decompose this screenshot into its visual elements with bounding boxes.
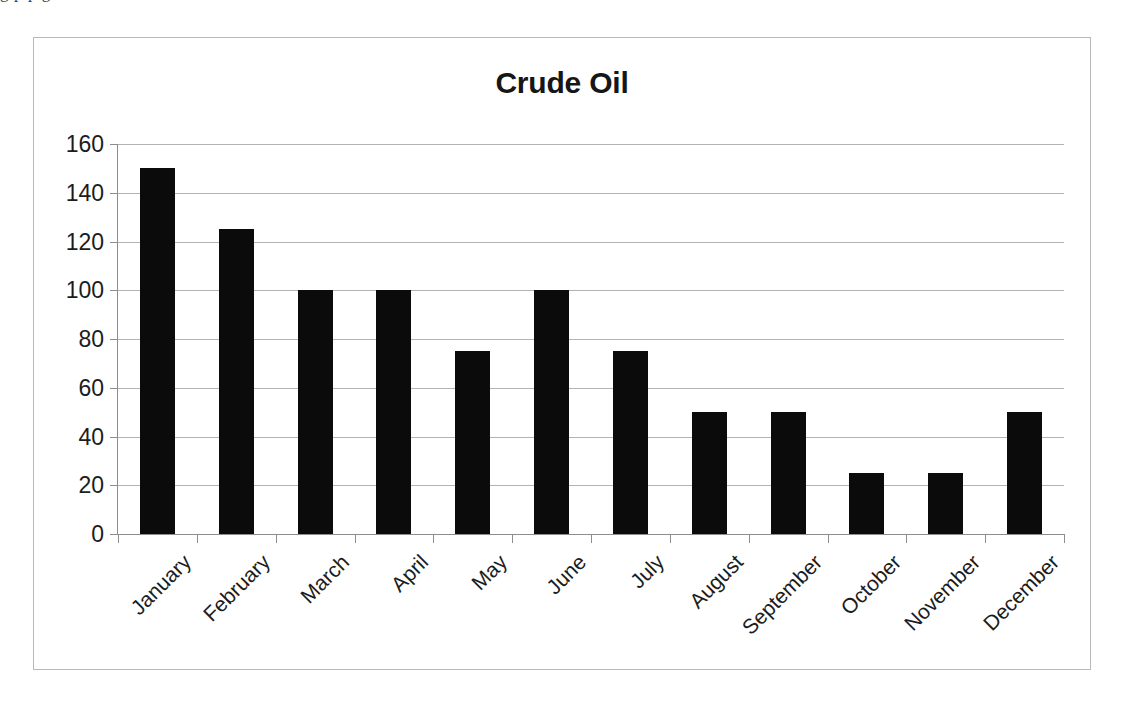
y-axis-label: 60 — [78, 374, 104, 401]
chart-frame: Crude Oil 020406080100120140160 JanuaryF… — [33, 37, 1091, 670]
y-axis-label: 40 — [78, 423, 104, 450]
x-tick-mark — [591, 534, 592, 543]
gridline-20 — [118, 485, 1064, 486]
x-tick-mark — [512, 534, 513, 543]
bar-september[interactable] — [771, 412, 806, 534]
bar-december[interactable] — [1007, 412, 1042, 534]
bar-october[interactable] — [849, 473, 884, 534]
bar-may[interactable] — [455, 351, 490, 534]
y-axis-label: 20 — [78, 472, 104, 499]
page-text-remnant: g p p g — [0, 0, 1127, 14]
x-tick-mark — [749, 534, 750, 543]
plot-area: 020406080100120140160 JanuaryFebruaryMar… — [118, 144, 1064, 534]
chart-title: Crude Oil — [34, 66, 1090, 100]
x-axis-label-february: February — [199, 550, 275, 626]
x-tick-mark — [197, 534, 198, 543]
x-tick-mark — [985, 534, 986, 543]
x-tick-mark — [118, 534, 119, 543]
y-axis-label: 80 — [78, 326, 104, 353]
gridline-40 — [118, 437, 1064, 438]
x-tick-mark — [355, 534, 356, 543]
bar-july[interactable] — [613, 351, 648, 534]
x-tick-mark — [1064, 534, 1065, 543]
y-tick-mark-80 — [110, 339, 118, 340]
y-tick-mark-20 — [110, 485, 118, 486]
bar-january[interactable] — [140, 168, 175, 534]
y-axis-label: 120 — [66, 228, 104, 255]
x-axis-label-november: November — [899, 550, 984, 635]
y-axis-label: 100 — [66, 277, 104, 304]
bar-april[interactable] — [376, 290, 411, 534]
gridline-100 — [118, 290, 1064, 291]
x-axis-label-july: July — [626, 550, 669, 593]
y-axis-label: 0 — [91, 521, 104, 548]
page-text-remnant-text: g p p g — [0, 0, 51, 2]
x-axis-label-october: October — [836, 550, 906, 620]
y-tick-mark-60 — [110, 388, 118, 389]
bar-august[interactable] — [692, 412, 727, 534]
y-axis-label: 140 — [66, 179, 104, 206]
gridline-60 — [118, 388, 1064, 389]
gridline-120 — [118, 242, 1064, 243]
bar-november[interactable] — [928, 473, 963, 534]
x-axis-label-december: December — [978, 550, 1063, 635]
x-axis-label-june: June — [541, 550, 590, 599]
x-axis-label-september: September — [737, 550, 827, 640]
x-tick-mark — [276, 534, 277, 543]
y-tick-mark-0 — [110, 534, 118, 535]
bar-february[interactable] — [219, 229, 254, 534]
x-tick-mark — [670, 534, 671, 543]
y-tick-mark-140 — [110, 193, 118, 194]
x-axis-label-march: March — [296, 550, 354, 608]
y-tick-mark-100 — [110, 290, 118, 291]
x-axis-label-january: January — [127, 550, 197, 620]
y-tick-mark-120 — [110, 242, 118, 243]
gridline-140 — [118, 193, 1064, 194]
bar-june[interactable] — [534, 290, 569, 534]
x-tick-mark — [828, 534, 829, 543]
gridline-80 — [118, 339, 1064, 340]
y-tick-mark-40 — [110, 437, 118, 438]
x-tick-mark — [906, 534, 907, 543]
x-axis-label-april: April — [386, 550, 433, 597]
x-axis-label-august: August — [685, 550, 748, 613]
gridline-160 — [118, 144, 1064, 145]
x-tick-mark — [433, 534, 434, 543]
bar-march[interactable] — [298, 290, 333, 534]
y-axis-label: 160 — [66, 131, 104, 158]
y-tick-mark-160 — [110, 144, 118, 145]
x-axis-label-may: May — [467, 550, 512, 595]
